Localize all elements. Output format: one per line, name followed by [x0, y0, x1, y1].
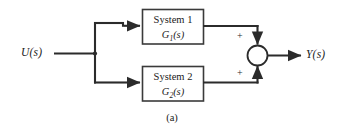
- summing-junction-top-sign: +: [237, 31, 243, 41]
- input-signal-label: U(s): [21, 47, 42, 59]
- output-signal-label: Y(s): [306, 49, 325, 61]
- system-2-transfer-function: G2(s): [142, 86, 204, 100]
- system-1-title: System 1: [142, 14, 204, 25]
- system-1-block-text: System 1 G1(s): [142, 14, 204, 43]
- system-2-title: System 2: [142, 71, 204, 82]
- system-2-block-text: System 2 G2(s): [142, 71, 204, 100]
- figure-caption: (a): [152, 113, 192, 124]
- summing-junction-bottom-sign: +: [237, 68, 243, 78]
- system-1-transfer-suffix: (s): [173, 29, 184, 40]
- summing-junction-circle: [248, 46, 268, 66]
- branch-node: [93, 51, 97, 55]
- block-diagram-figure: U(s) Y(s) System 1 G1(s) System 2 G2(s) …: [0, 0, 339, 134]
- system-2-transfer-suffix: (s): [173, 86, 184, 97]
- system-1-transfer-function: G1(s): [142, 29, 204, 43]
